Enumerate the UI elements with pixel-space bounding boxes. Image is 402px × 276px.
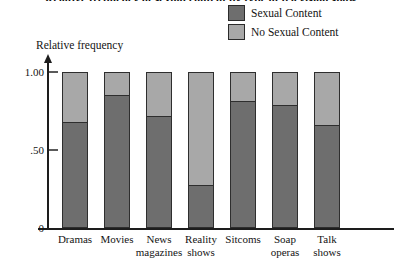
bar-dramas (62, 72, 88, 228)
bar-segment-no-sexual-content (231, 73, 255, 101)
bar-segment-sexual-content (147, 116, 171, 227)
bar-reality-shows (188, 72, 214, 228)
bar-segment-no-sexual-content (273, 73, 297, 105)
x-axis-label-line: shows (297, 246, 357, 259)
bar-segment-no-sexual-content (189, 73, 213, 185)
x-axis-label-line: shows (171, 246, 231, 259)
bar-news-magazines (146, 72, 172, 228)
bar-sitcoms (230, 72, 256, 228)
bar-talk-shows (314, 72, 340, 228)
x-axis-label-line: Talk (297, 233, 357, 246)
bar-segment-sexual-content (231, 101, 255, 227)
x-axis-category-labels: DramasMoviesNewsmagazinesRealityshowsSit… (0, 233, 402, 273)
bar-segment-sexual-content (105, 95, 129, 227)
bar-segment-sexual-content (315, 125, 339, 227)
stacked-bar-chart: Relative frequency of sexual content by … (0, 0, 402, 276)
bar-segment-no-sexual-content (315, 73, 339, 125)
x-axis-label-talk-shows: Talkshows (297, 233, 357, 259)
bar-segment-sexual-content (273, 105, 297, 227)
bar-soap-operas (272, 72, 298, 228)
bar-segment-no-sexual-content (147, 73, 171, 116)
bar-segment-sexual-content (63, 122, 87, 227)
bar-segment-sexual-content (189, 185, 213, 227)
bar-movies (104, 72, 130, 228)
bar-segment-no-sexual-content (105, 73, 129, 95)
bar-segment-no-sexual-content (63, 73, 87, 122)
